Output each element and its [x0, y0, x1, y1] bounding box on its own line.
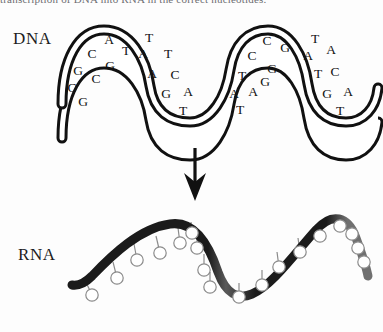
rna-base-circle — [352, 242, 364, 254]
rna-base-circle — [334, 220, 346, 232]
rna-base-circle — [186, 227, 198, 239]
transcription-figure: transcription of DNA into RNA in the cor… — [0, 0, 383, 332]
rna-base-circle — [314, 230, 326, 242]
rna-base-circle — [204, 281, 216, 293]
rna-base-circle — [174, 237, 186, 249]
rna-base-circle — [346, 228, 358, 240]
rna-base-circle — [154, 247, 166, 259]
rna-base-circle — [131, 254, 143, 266]
rna-base-circle — [273, 261, 285, 273]
rna-base-circle — [294, 246, 306, 258]
rna-base-circle — [86, 289, 98, 301]
rna-base-circle — [256, 279, 268, 291]
rna-base-circle — [233, 291, 245, 303]
rna-strand — [0, 0, 383, 332]
rna-base-circle — [358, 256, 370, 268]
rna-base-circle — [111, 272, 123, 284]
rna-base-circle — [191, 242, 203, 254]
rna-base-circle — [198, 264, 210, 276]
